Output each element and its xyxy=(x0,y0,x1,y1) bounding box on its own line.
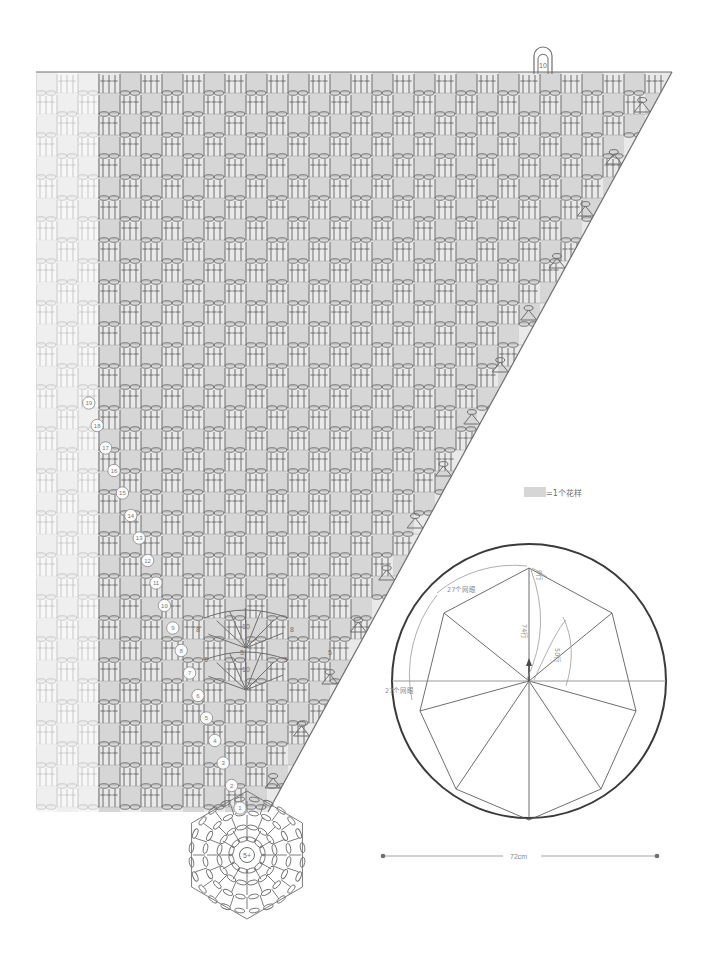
row-number: 7 xyxy=(183,667,195,679)
legend-swatch xyxy=(524,487,546,497)
pattern-sheet: 10 5+ 12345678910111213141516171819 5555… xyxy=(0,0,703,959)
loop-stitch-count: 10 xyxy=(539,62,547,69)
hanging-loop: 10 xyxy=(534,47,552,74)
row-number: 4 xyxy=(209,734,221,746)
assembly-schematic: 27个网眼 27个网眼 9行 74行 50行 72cm xyxy=(381,544,666,862)
svg-text:14: 14 xyxy=(127,513,134,519)
annotation-rows-9: 9行 xyxy=(535,570,544,581)
row-number: 14 xyxy=(125,509,137,521)
annotation-mesh-27-upper: 27个网眼 xyxy=(447,586,476,594)
annotation-rows-50: 50行 xyxy=(553,648,562,663)
stitch-count-label: 5 xyxy=(240,649,244,656)
row-number: 18 xyxy=(91,419,103,431)
stitch-count-label: 8 xyxy=(196,626,200,633)
row-number: 1 xyxy=(234,802,246,814)
svg-text:16: 16 xyxy=(111,468,118,474)
row-number: 10 xyxy=(158,599,170,611)
row-number: 11 xyxy=(150,577,162,589)
row-number: 3 xyxy=(217,757,229,769)
legend-label: =1个花样 xyxy=(546,489,582,498)
stitch-count-label: 5 xyxy=(284,656,288,663)
row-number: 19 xyxy=(83,397,95,409)
row-number: 15 xyxy=(116,487,128,499)
svg-text:18: 18 xyxy=(94,423,101,429)
stitch-count-label: 8 xyxy=(290,626,294,633)
svg-text:10: 10 xyxy=(161,603,168,609)
svg-text:13: 13 xyxy=(136,535,143,541)
row-number: 9 xyxy=(167,622,179,634)
legend: =1个花样 xyxy=(524,482,582,500)
row-number: 12 xyxy=(141,554,153,566)
stitch-count-label: 5 xyxy=(204,656,208,663)
stitch-count-label: 10 xyxy=(242,623,250,630)
svg-text:15: 15 xyxy=(119,490,126,496)
stitch-count-label: 10 xyxy=(242,666,250,673)
row-number: 17 xyxy=(99,442,111,454)
stitch-count-label: 5 xyxy=(328,649,332,656)
row-number: 13 xyxy=(133,532,145,544)
width-dimension-label: 72cm xyxy=(510,853,527,860)
svg-text:17: 17 xyxy=(102,445,109,451)
center-ring-label: 5+ xyxy=(243,852,251,859)
row-number: 5 xyxy=(200,712,212,724)
svg-text:12: 12 xyxy=(144,558,151,564)
left-fade xyxy=(36,66,98,816)
svg-text:11: 11 xyxy=(153,580,160,586)
svg-text:19: 19 xyxy=(85,400,92,406)
annotation-mesh-27-left: 27个网眼 xyxy=(385,687,414,695)
row-number: 8 xyxy=(175,644,187,656)
row-number: 6 xyxy=(192,689,204,701)
row-number: 16 xyxy=(108,464,120,476)
annotation-rows-74: 74行 xyxy=(520,624,529,639)
pattern-canvas: 10 5+ 12345678910111213141516171819 5555… xyxy=(0,0,703,959)
row-number: 2 xyxy=(225,779,237,791)
width-dimension: 72cm xyxy=(381,849,660,862)
